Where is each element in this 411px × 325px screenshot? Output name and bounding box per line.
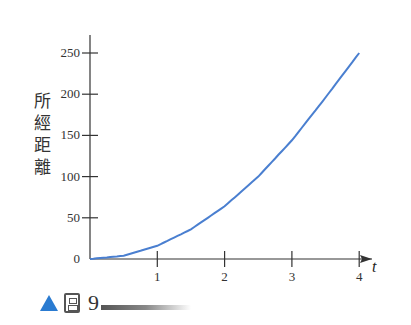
x-tick-label: 2 xyxy=(221,269,228,284)
figure-number: 9 xyxy=(88,290,99,316)
y-tick-label: 200 xyxy=(61,86,81,101)
x-axis-variable: t xyxy=(372,258,377,275)
caption-underline xyxy=(101,305,191,310)
y-tick-label: 50 xyxy=(67,210,80,225)
x-tick-label: 4 xyxy=(356,269,363,284)
x-tick-label: 3 xyxy=(289,269,296,284)
distance-curve xyxy=(90,53,359,259)
y-tick-label: 0 xyxy=(74,251,81,266)
y-tick-label: 100 xyxy=(61,169,81,184)
ylabel-char: 所 xyxy=(30,90,54,112)
axes xyxy=(90,35,372,263)
ylabel-char: 經 xyxy=(30,112,54,134)
x-tick-label: 1 xyxy=(154,269,161,284)
triangle-icon xyxy=(40,295,58,311)
ticks: 0501001502002501234 xyxy=(61,45,363,284)
ylabel-char: 距 xyxy=(30,134,54,156)
distance-chart: 0501001502002501234 t xyxy=(0,0,411,325)
y-tick-label: 250 xyxy=(61,45,81,60)
ylabel-char: 離 xyxy=(30,156,54,178)
figure-caption: 9 xyxy=(40,290,191,316)
y-tick-label: 150 xyxy=(61,127,81,142)
y-axis-label: 所 經 距 離 xyxy=(30,90,54,178)
figure-glyph-icon xyxy=(64,293,80,313)
